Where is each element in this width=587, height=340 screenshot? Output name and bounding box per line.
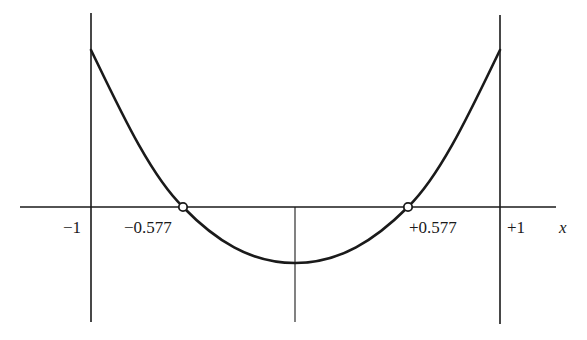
tick-label-minus-one: −1 xyxy=(63,218,81,237)
x-axis-label: x xyxy=(558,218,567,237)
tick-label-plus-one: +1 xyxy=(507,218,525,237)
left-root-marker xyxy=(179,203,187,211)
tick-label-minus-root: −0.577 xyxy=(124,218,172,237)
right-root-marker xyxy=(404,203,412,211)
figure-canvas: −1 −0.577 +0.577 +1 x xyxy=(0,0,587,340)
tick-label-plus-root: +0.577 xyxy=(409,218,457,237)
